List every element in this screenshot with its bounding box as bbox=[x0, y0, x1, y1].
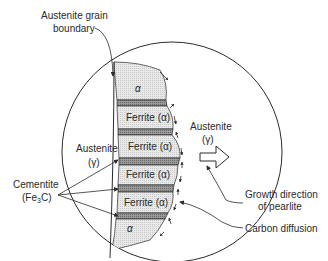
label-austenite-left-1: Austenite bbox=[76, 143, 118, 154]
label-carbon-diffusion: Carbon diffusion bbox=[245, 223, 318, 234]
label-ferrite-2: Ferrite (α) bbox=[128, 141, 172, 152]
leader-grain-boundary bbox=[95, 28, 113, 76]
leader-carbon-diffusion bbox=[180, 202, 243, 228]
label-grain-boundary-2: boundary bbox=[53, 23, 95, 34]
label-growth-1: Growth direction bbox=[245, 189, 318, 200]
label-ferrite-4: Ferrite (α) bbox=[124, 197, 168, 208]
lamella-alpha-bottom bbox=[112, 219, 165, 250]
pearlite-diagram: α Ferrite (α) Ferrite (α) Ferrite (α) Fe… bbox=[0, 0, 328, 261]
label-growth-2: of pearlite bbox=[258, 201, 302, 212]
label-alpha-top: α bbox=[135, 83, 141, 94]
lamella-cementite-2 bbox=[118, 129, 173, 135]
label-cementite-2: (Fe3C) bbox=[22, 192, 51, 204]
leader-growth bbox=[207, 166, 243, 203]
cementite-leaders bbox=[58, 160, 118, 216]
label-austenite-right-1: Austenite bbox=[190, 121, 232, 132]
growth-direction-arrow-icon bbox=[200, 146, 229, 168]
label-austenite-left-2: (γ) bbox=[88, 157, 100, 168]
lamella-cementite-5 bbox=[116, 213, 168, 219]
lamella-cementite-3 bbox=[119, 158, 180, 165]
lamella-alpha-top bbox=[114, 62, 166, 100]
lamella-cementite-1 bbox=[117, 100, 167, 106]
label-ferrite-3: Ferrite (α) bbox=[126, 169, 170, 180]
label-austenite-right-2: (γ) bbox=[202, 134, 214, 145]
label-cementite-1: Cementite bbox=[13, 179, 59, 190]
label-grain-boundary-1: Austenite grain bbox=[41, 10, 108, 21]
label-ferrite-1: Ferrite (α) bbox=[126, 112, 170, 123]
grain-boundary-line bbox=[110, 62, 114, 258]
label-alpha-bottom: α bbox=[127, 223, 133, 234]
lamella-cementite-4 bbox=[118, 185, 174, 192]
